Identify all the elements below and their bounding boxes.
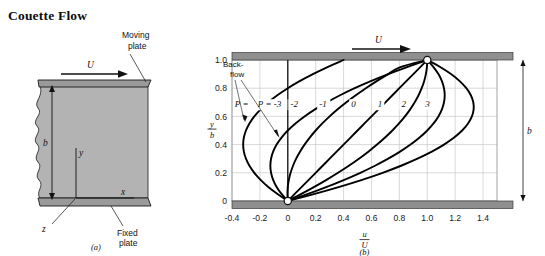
curve-p-0 <box>288 60 427 201</box>
x-tick-label: 0 <box>285 213 290 223</box>
curve-label-p-3: 3 <box>424 99 430 109</box>
fixed-plate-label-line1: Fixed <box>117 228 138 238</box>
figure-b-velocity-profiles: U P = -3-2-10123P = -0.4-0.200.20.40.60.… <box>204 24 545 256</box>
curve-label-p-1: -1 <box>319 99 327 109</box>
fixed-plate-label-line2: plate <box>119 238 138 248</box>
moving-plate-leader <box>130 54 146 82</box>
curve-label-p-0: 0 <box>351 99 356 109</box>
axis-label-z: z <box>41 224 46 234</box>
x-tick-label: 1.4 <box>477 213 489 223</box>
velocity-arrow-U <box>352 45 411 53</box>
fixed-plate <box>38 198 151 206</box>
y-tick-label: 0 <box>222 196 227 206</box>
svg-text:u: u <box>362 229 366 239</box>
velocity-arrow-U <box>61 70 128 78</box>
gap-label-b: b <box>43 138 48 148</box>
endpoint-marker <box>424 56 431 63</box>
y-tick-label: 0.2 <box>215 168 227 178</box>
moving-plate-label-line2: plate <box>128 41 147 51</box>
figure-b-caption: (b) <box>360 247 370 256</box>
x-tick-label: 0.4 <box>338 213 350 223</box>
moving-plate <box>38 80 151 87</box>
moving-plate-label-line1: Moving <box>122 30 150 40</box>
velocity-label-U: U <box>375 35 383 45</box>
axis-label-x: x <box>120 187 126 197</box>
velocity-label-U: U <box>87 60 95 70</box>
x-tick-label: 1.2 <box>449 213 461 223</box>
y-tick-label: 0.6 <box>215 112 227 122</box>
x-tick-label: 0.8 <box>393 213 405 223</box>
svg-text:b: b <box>210 130 214 140</box>
gap-label-b: b <box>527 126 532 136</box>
backflow-label-line2: flow <box>230 70 244 79</box>
x-tick-label: -0.2 <box>252 213 267 223</box>
svg-text:y: y <box>209 119 214 129</box>
y-axis-tick-labels: 00.20.40.60.81.0 <box>215 55 227 206</box>
y-axis-label: y b <box>208 119 217 140</box>
x-tick-label: 0.6 <box>365 213 377 223</box>
y-tick-label: 0.4 <box>215 140 227 150</box>
curve-label-p-2: 2 <box>401 99 406 109</box>
curve-label-p-1: 1 <box>378 99 383 109</box>
figure-a-schematic: U b y x z Moving plate Fixed plate (a) <box>18 26 203 252</box>
curve-label-p-2: -2 <box>291 99 299 109</box>
curve-p-3 <box>243 60 343 201</box>
curve-p-2 <box>288 60 445 201</box>
figure-a-caption: (a) <box>91 242 101 252</box>
x-tick-label: -0.4 <box>225 213 240 223</box>
top-moving-plate <box>232 53 513 61</box>
fixed-plate-leader <box>111 206 123 226</box>
curve-label-p-3: P = -3 <box>257 99 282 109</box>
x-tick-label: 0.2 <box>310 213 322 223</box>
axis-label-y: y <box>78 148 84 158</box>
gap-dimension-b <box>520 60 525 201</box>
x-tick-label: 1.0 <box>421 213 433 223</box>
curve-p-2 <box>270 60 427 201</box>
x-axis-tick-labels: -0.4-0.200.20.40.60.81.01.21.4 <box>225 213 490 223</box>
y-tick-label: 0.8 <box>215 83 227 93</box>
curve-labels: P = -3-2-10123P = <box>234 99 432 110</box>
page-title: Couette Flow <box>8 8 87 24</box>
bottom-fixed-plate <box>232 201 513 209</box>
backflow-label-line1: Back- <box>223 60 244 69</box>
endpoint-marker <box>284 197 291 204</box>
velocity-profile-curves <box>243 60 474 201</box>
